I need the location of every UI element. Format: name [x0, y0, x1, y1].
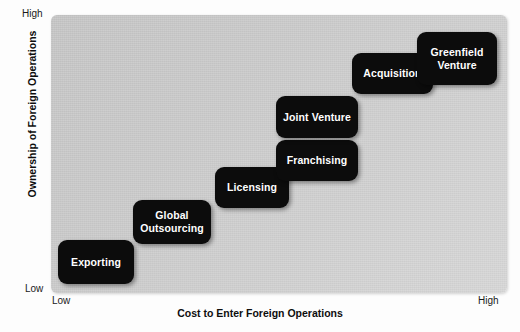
step-box-global-outsourcing: Global Outsourcing — [133, 200, 211, 244]
step-box-greenfield-venture: Greenfield Venture — [417, 32, 497, 85]
step-box-label: Acquisition — [363, 67, 421, 80]
plot-area: Exporting Global Outsourcing Licensing F… — [51, 15, 507, 293]
y-axis-tick-high: High — [22, 8, 43, 19]
x-axis-tick-high: High — [478, 295, 499, 306]
x-axis-tick-low: Low — [52, 295, 70, 306]
x-axis-title: Cost to Enter Foreign Operations — [60, 307, 460, 319]
step-box-franchising: Franchising — [276, 140, 358, 181]
step-box-label: Greenfield Venture — [431, 46, 484, 72]
step-box-label: Joint Venture — [283, 111, 351, 124]
y-axis-title: Ownership of Foreign Operations — [26, 14, 38, 214]
step-box-exporting: Exporting — [58, 240, 134, 284]
entry-mode-staircase-figure: Ownership of Foreign Operations High Low… — [0, 0, 520, 332]
step-box-label: Exporting — [71, 256, 121, 269]
step-box-label: Licensing — [227, 181, 277, 194]
step-box-label: Global Outsourcing — [140, 209, 204, 235]
y-axis-tick-low: Low — [25, 283, 43, 294]
step-box-joint-venture: Joint Venture — [276, 96, 358, 138]
step-box-label: Franchising — [287, 154, 348, 167]
